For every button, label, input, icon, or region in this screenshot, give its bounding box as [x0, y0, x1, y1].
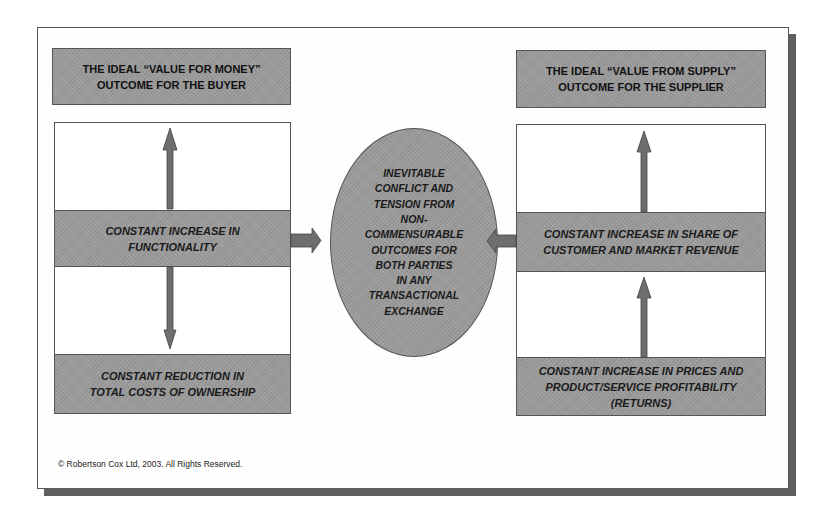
arrow-right-icon: [291, 228, 321, 253]
arrow-left-icon: [487, 229, 516, 253]
copyright-notice: © Robertson Cox Ltd, 2003. All Rights Re…: [58, 459, 242, 469]
arrow-up-icon: [637, 131, 651, 212]
arrow-down-icon: [164, 267, 176, 349]
arrows-layer: [0, 0, 831, 528]
arrow-up-icon: [637, 277, 651, 357]
arrow-up-icon: [163, 128, 177, 209]
